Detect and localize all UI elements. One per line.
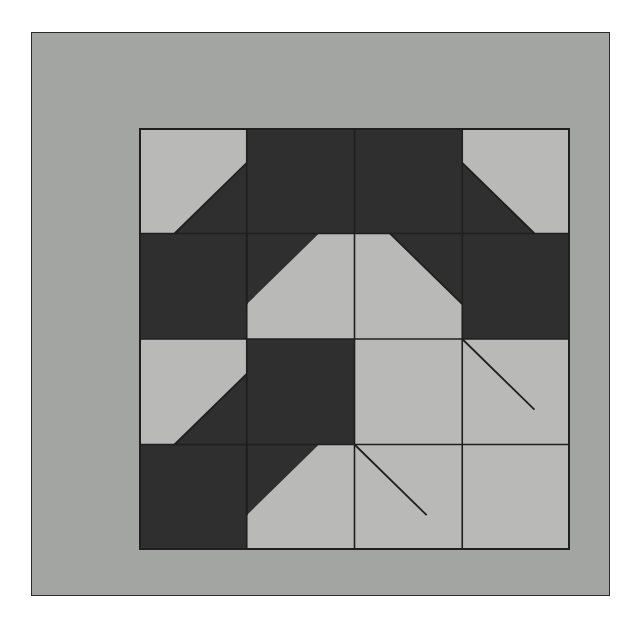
quilt-patch-r1c2 [247, 128, 355, 234]
quilt-patch-r2c4 [462, 234, 570, 340]
quilt-patch-r4c1 [139, 445, 247, 551]
quilt-patch-r3c2 [247, 339, 355, 445]
quilt-patch-r1c3 [355, 128, 463, 234]
quilt-patch-r4c4 [462, 445, 570, 551]
artwork-canvas: Four-by-four patchwork quilt block A squ… [0, 0, 642, 625]
quilt-patch-r2c1 [139, 234, 247, 340]
quilt-block [139, 128, 570, 550]
quilt-block-svg [139, 128, 570, 550]
quilt-outer-frame [31, 32, 610, 596]
quilt-patch-r3c3 [355, 339, 463, 445]
